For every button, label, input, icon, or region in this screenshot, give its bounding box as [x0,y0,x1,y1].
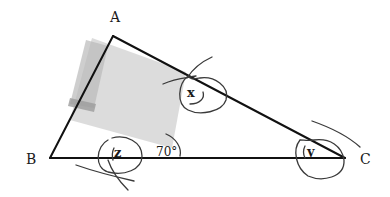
vertex-label-b: B [26,152,36,166]
angle-label-x: x [187,86,195,99]
arc-y [304,146,306,158]
pencil-line-y [312,121,360,147]
vertex-label-a: A [110,10,120,24]
angle-label-z: z [114,146,121,159]
angle-label-70: 70° [156,146,177,158]
pencil-line-x2 [187,57,212,78]
triangle-diagram: A B C x y z 70° [0,0,390,197]
shaded-square [68,38,186,148]
vertex-label-c: C [360,152,371,166]
diagram-canvas [0,0,390,197]
angle-label-y: y [307,145,315,158]
